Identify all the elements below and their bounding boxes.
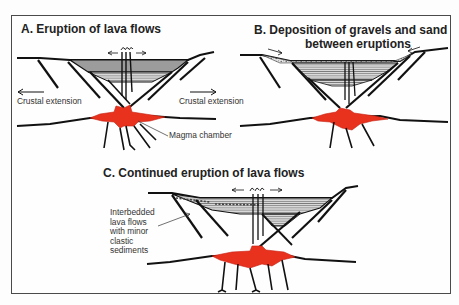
panel-b-title-line2: between eruptions: [305, 37, 411, 51]
panel-c-graphic: [147, 186, 358, 292]
annotation-line: sediments: [110, 246, 155, 256]
panel-b-graphic: [240, 47, 448, 148]
panel-a-left-extension-label: Crustal extension: [17, 97, 82, 107]
diagram-stage: A. Eruption of lava flows Crustal extens…: [0, 0, 459, 305]
magma-chamber-label: Magma chamber: [169, 131, 232, 141]
panel-a-right-extension-label: Crustal extension: [179, 97, 244, 107]
panel-b-title-line1: B. Deposition of gravels and sand: [254, 23, 447, 37]
panel-c-annotation: Interbedded lava flows with minor clasti…: [110, 208, 155, 256]
panel-c-title: C. Continued eruption of lava flows: [103, 166, 304, 180]
panel-a-title: A. Eruption of lava flows: [21, 22, 161, 36]
